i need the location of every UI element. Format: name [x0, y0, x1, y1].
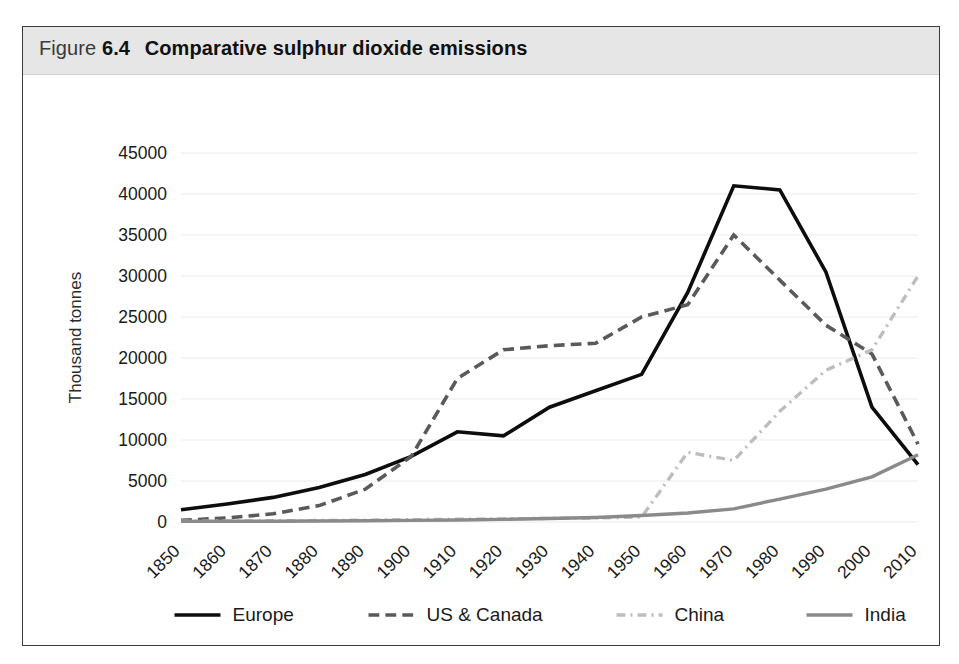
figure-number: 6.4 — [102, 37, 130, 59]
x-tick-label: 1980 — [741, 541, 783, 583]
x-tick-label: 1970 — [695, 541, 737, 583]
y-tick-label: 15000 — [118, 389, 167, 409]
x-tick-label: 1990 — [787, 541, 829, 583]
figure-frame: Figure 6.4 Comparative sulphur dioxide e… — [22, 26, 940, 646]
x-axis-tick-labels: 1850186018701880189019001910192019301940… — [142, 541, 921, 583]
x-tick-label: 1950 — [603, 541, 645, 583]
line-chart: 0500010000150002000025000300003500040000… — [23, 75, 938, 645]
x-tick-label: 1910 — [419, 541, 461, 583]
y-axis-tick-labels: 0500010000150002000025000300003500040000… — [118, 143, 167, 532]
x-tick-label: 1850 — [142, 541, 184, 583]
figure-caption: Comparative sulphur dioxide emissions — [145, 37, 528, 59]
x-tick-label: 1860 — [188, 541, 230, 583]
series-line-us-canada — [181, 235, 918, 520]
data-series-group — [181, 186, 918, 522]
x-tick-label: 1870 — [234, 541, 276, 583]
y-tick-label: 20000 — [118, 348, 167, 368]
x-tick-label: 1880 — [280, 541, 322, 583]
legend-label-india: India — [865, 604, 907, 625]
x-tick-label: 1920 — [465, 541, 507, 583]
chart-container: 0500010000150002000025000300003500040000… — [23, 75, 938, 645]
series-line-europe — [181, 186, 918, 510]
legend-label-europe: Europe — [233, 604, 294, 625]
y-tick-label: 5000 — [128, 471, 167, 491]
x-tick-label: 1930 — [511, 541, 553, 583]
y-tick-label: 10000 — [118, 430, 167, 450]
x-tick-label: 1940 — [557, 541, 599, 583]
x-tick-label: 2000 — [833, 541, 875, 583]
y-tick-label: 45000 — [118, 143, 167, 163]
figure-label: Figure — [39, 37, 96, 59]
x-tick-label: 2010 — [879, 541, 921, 583]
legend-label-china: China — [675, 604, 725, 625]
screenshot-root: Figure 6.4 Comparative sulphur dioxide e… — [0, 0, 959, 664]
y-tick-label: 25000 — [118, 307, 167, 327]
y-tick-label: 35000 — [118, 225, 167, 245]
x-tick-label: 1960 — [649, 541, 691, 583]
chart-legend: EuropeUS & CanadaChinaIndia — [175, 604, 907, 625]
y-tick-label: 40000 — [118, 184, 167, 204]
x-tick-label: 1900 — [372, 541, 414, 583]
y-tick-label: 30000 — [118, 266, 167, 286]
y-tick-label: 0 — [157, 512, 167, 532]
legend-label-us-canada: US & Canada — [427, 604, 544, 625]
figure-title: Figure 6.4 Comparative sulphur dioxide e… — [39, 37, 527, 60]
y-axis-title: Thousand tonnes — [66, 272, 85, 403]
gridlines-group — [181, 153, 918, 522]
x-tick-label: 1890 — [326, 541, 368, 583]
